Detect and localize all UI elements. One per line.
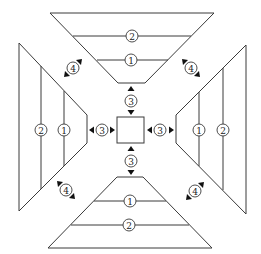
svg-text:4: 4	[188, 64, 194, 74]
trapezoid-layout-diagram: 2 1 1 2 2 1	[0, 0, 261, 254]
corner-marker-top-right: 4	[182, 59, 200, 77]
arrow-down-icon	[128, 110, 135, 115]
arrow-down-icon	[128, 170, 135, 175]
svg-text:4: 4	[192, 187, 198, 197]
arrow-up-icon	[128, 86, 135, 91]
corner-marker-top-left: 4	[64, 59, 82, 77]
svg-text:2: 2	[126, 221, 132, 231]
svg-text:1: 1	[128, 56, 134, 66]
svg-text:1: 1	[196, 126, 202, 136]
svg-text:3: 3	[157, 126, 163, 136]
svg-text:4: 4	[70, 64, 76, 74]
svg-text:2: 2	[220, 126, 226, 136]
bottom-label-1: 1	[124, 195, 136, 207]
center-square	[117, 117, 144, 143]
svg-text:3: 3	[128, 157, 134, 167]
arrow-right-icon	[110, 127, 115, 134]
gap-marker-top: 3	[125, 86, 137, 115]
arrow-left-icon	[147, 127, 152, 134]
svg-text:2: 2	[38, 126, 44, 136]
svg-text:3: 3	[99, 126, 105, 136]
right-label-2: 2	[217, 124, 229, 136]
right-label-1: 1	[193, 124, 205, 136]
bottom-label-2: 2	[123, 219, 135, 231]
svg-text:1: 1	[127, 197, 133, 207]
arrow-up-icon	[128, 146, 135, 151]
left-label-2: 2	[35, 124, 47, 136]
top-label-2: 2	[126, 30, 138, 42]
svg-text:1: 1	[61, 126, 67, 136]
gap-marker-right: 3	[147, 124, 174, 136]
bottom-panel: 1 2	[48, 177, 212, 248]
svg-text:4: 4	[63, 186, 69, 196]
svg-text:2: 2	[129, 32, 135, 42]
gap-marker-left: 3	[89, 124, 115, 136]
corner-marker-bottom-left: 4	[57, 181, 75, 199]
arrow-left-icon	[89, 127, 94, 134]
svg-text:3: 3	[128, 97, 134, 107]
bottom-panel-outline	[48, 177, 212, 248]
corner-marker-bottom-right: 4	[186, 182, 204, 200]
top-label-1: 1	[125, 54, 137, 66]
left-label-1: 1	[58, 124, 70, 136]
arrow-right-icon	[169, 127, 174, 134]
gap-marker-bottom: 3	[125, 146, 137, 175]
